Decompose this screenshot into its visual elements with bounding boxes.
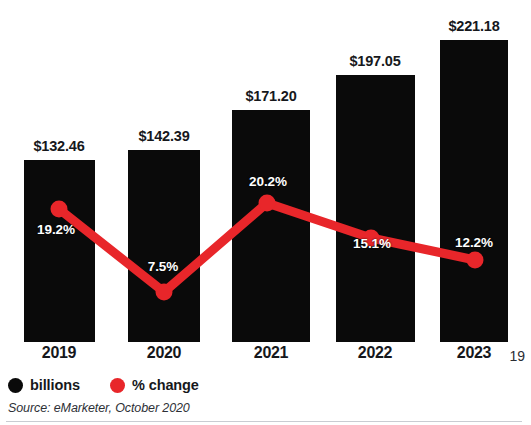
x-tick-2022: 2022 <box>325 344 425 362</box>
plot-area: $132.46 $142.39 $171.20 $197.05 $221.18 … <box>0 0 531 348</box>
pct-label-2022: 15.1% <box>322 236 422 251</box>
x-tick-2020: 2020 <box>114 344 214 362</box>
bar-2022 <box>336 75 415 342</box>
bar-2021 <box>232 110 310 342</box>
bar-value-label-2023: $221.18 <box>414 18 531 34</box>
chart-legend: billions % change <box>8 374 229 396</box>
pct-label-2021: 20.2% <box>218 174 318 189</box>
legend-swatch-circle-icon <box>110 378 125 393</box>
bar-2019 <box>24 160 95 342</box>
pct-label-2020: 7.5% <box>113 259 213 274</box>
bar-value-label-2019: $132.46 <box>0 138 119 154</box>
bottom-divider <box>6 421 522 422</box>
legend-label-percent-change: % change <box>132 377 199 393</box>
bar-value-label-2021: $171.20 <box>211 88 331 104</box>
x-tick-2019: 2019 <box>9 344 109 362</box>
bar-2020 <box>128 150 200 342</box>
bar-value-label-2022: $197.05 <box>315 53 435 69</box>
x-tick-2021: 2021 <box>221 344 321 362</box>
pct-label-2023: 12.2% <box>424 235 524 250</box>
legend-swatch-circle-icon <box>8 378 23 393</box>
legend-label-billions: billions <box>30 377 80 393</box>
legend-item-percent-change: % change <box>110 377 199 393</box>
page-number: 19 <box>509 348 525 364</box>
pct-label-2019: 19.2% <box>6 222 106 237</box>
source-note: Source: eMarketer, October 2020 <box>8 401 190 415</box>
x-axis: 2019 2020 2021 2022 2023 <box>0 344 531 370</box>
chart-figure: $132.46 $142.39 $171.20 $197.05 $221.18 … <box>0 0 531 425</box>
bar-2023 <box>440 40 508 342</box>
bar-value-label-2020: $142.39 <box>104 128 224 144</box>
legend-item-billions: billions <box>8 377 80 393</box>
